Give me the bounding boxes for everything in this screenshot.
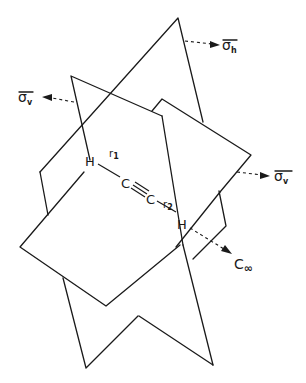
arrowhead-icon — [210, 41, 220, 48]
sigma-h-plane — [40, 18, 213, 365]
c-inf-label: C∞ — [234, 256, 253, 275]
front-plane — [20, 172, 220, 306]
sigma-v-right-pointer — [237, 172, 270, 179]
sigma-v-left-plane — [63, 76, 183, 368]
acetylene-symmetry-diagram: H C C H r1 r2 σh σv σv C∞ — [0, 0, 306, 383]
c-inf-axis-pointer — [190, 228, 232, 254]
arrowhead-icon — [42, 94, 52, 101]
arrowhead-icon — [221, 245, 232, 254]
atom-h2: H — [177, 217, 187, 232]
atom-h1: H — [85, 154, 95, 169]
bond-label-r1: r1 — [109, 148, 119, 161]
arrowhead-icon — [260, 172, 270, 179]
sigma-v-left-pointer — [42, 94, 74, 102]
sigma-h-pointer — [185, 41, 220, 48]
atom-c1: C — [121, 176, 130, 191]
bond-label-r2: r2 — [163, 199, 173, 212]
atom-c2: C — [146, 192, 155, 207]
